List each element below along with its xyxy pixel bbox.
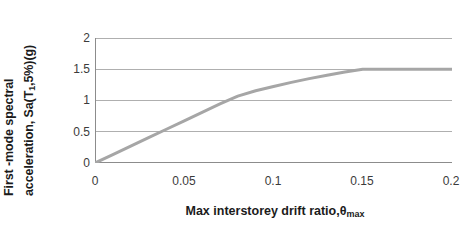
- y-tick-label: 0: [56, 157, 90, 169]
- data-series-line: [95, 69, 452, 163]
- x-tick-label: 0.2: [421, 175, 466, 187]
- x-axis-title-text: Max interstorey drift ratio,θ: [186, 204, 347, 218]
- y-axis-title-line2: acceleration, Sa(T1,5%)(g): [22, 0, 36, 196]
- y-axis-title-line1: First -mode spectral: [2, 0, 16, 196]
- y-tick-label: 0.5: [56, 126, 90, 138]
- y-axis-title: First -mode spectral acceleration, Sa(T1…: [0, 0, 56, 200]
- y-tick-label: 1.5: [56, 63, 90, 75]
- x-axis-title: Max interstorey drift ratio,θmax: [95, 204, 455, 218]
- chart-figure: First -mode spectral acceleration, Sa(T1…: [0, 0, 466, 237]
- plot-area: [95, 38, 452, 163]
- y-tick-label: 2: [56, 32, 90, 44]
- y-axis-title-line2-prefix: acceleration, Sa(T: [22, 91, 36, 196]
- plot-svg: [95, 38, 452, 163]
- y-axis-tick-labels: 2 1.5 1 0.5 0: [52, 0, 90, 200]
- y-tick-label: 1: [56, 94, 90, 106]
- y-axis-title-line2-suffix: ,5%)(g): [22, 45, 36, 86]
- y-axis-title-line2-subscript: 1: [27, 86, 37, 91]
- x-tick-label: 0: [65, 175, 125, 187]
- x-axis-title-subscript: max: [346, 209, 364, 219]
- x-axis-tick-labels: 0 0.05 0.1 0.15 0.2: [95, 175, 452, 195]
- x-tick-label: 0.1: [243, 175, 303, 187]
- x-tick-label: 0.15: [332, 175, 392, 187]
- x-tick-label: 0.05: [154, 175, 214, 187]
